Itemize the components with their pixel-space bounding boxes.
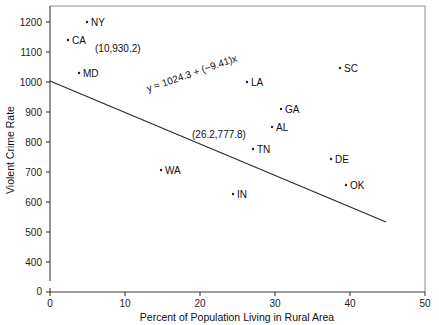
point-label: OK xyxy=(350,180,365,191)
point-label: WA xyxy=(165,165,181,176)
data-point-MD: MD xyxy=(78,68,99,79)
x-tick-marks xyxy=(50,292,425,296)
point-label: NY xyxy=(91,17,105,28)
y-tick-label-0: 0 xyxy=(36,286,42,297)
point-marker xyxy=(252,148,254,150)
data-point-IN: IN xyxy=(232,189,247,200)
point-label: TN xyxy=(257,144,270,155)
data-point-CA: CA xyxy=(67,35,86,46)
scatter-plot-figure: 1200 1100 1000 900 800 700 600 500 400 0… xyxy=(0,0,439,325)
x-tick-label-10: 10 xyxy=(119,298,131,309)
data-point-GA: GA xyxy=(280,104,300,115)
data-point-SC: SC xyxy=(339,63,358,74)
x-tick-label-30: 30 xyxy=(269,298,281,309)
point-marker xyxy=(67,39,69,41)
data-point-AL: AL xyxy=(271,122,289,133)
point-label: CA xyxy=(72,35,86,46)
data-point-WA: WA xyxy=(160,165,181,176)
point-marker xyxy=(86,21,88,23)
data-point-TN: TN xyxy=(252,144,271,155)
point-marker xyxy=(232,193,234,195)
x-tick-label-0: 0 xyxy=(47,298,53,309)
y-tick-label-600: 600 xyxy=(25,197,42,208)
y-tick-label-1000: 1000 xyxy=(20,77,43,88)
regression-line xyxy=(50,81,386,222)
x-tick-label-20: 20 xyxy=(194,298,206,309)
data-point-LA: LA xyxy=(246,77,264,88)
x-tick-label-40: 40 xyxy=(344,298,356,309)
x-axis-title: Percent of Population Living in Rural Ar… xyxy=(140,311,335,323)
y-tick-label-900: 900 xyxy=(25,107,42,118)
point-label: LA xyxy=(251,77,264,88)
y-tick-label-1200: 1200 xyxy=(20,17,43,28)
centroid-annotation-label: (26.2,777.8) xyxy=(192,129,246,140)
plot-canvas: 1200 1100 1000 900 800 700 600 500 400 0… xyxy=(0,0,439,325)
point-label: GA xyxy=(285,104,300,115)
y-tick-marks xyxy=(46,22,50,292)
point-marker xyxy=(330,158,332,160)
data-point-OK: OK xyxy=(345,180,365,191)
y-tick-label-700: 700 xyxy=(25,167,42,178)
outlier-annotation-label: (10,930.2) xyxy=(95,43,141,54)
point-label: IN xyxy=(237,189,247,200)
point-marker xyxy=(160,169,162,171)
point-marker xyxy=(280,108,282,110)
point-marker xyxy=(345,184,347,186)
point-marker xyxy=(246,81,248,83)
point-marker xyxy=(78,72,80,74)
point-label: DE xyxy=(335,154,349,165)
y-tick-label-500: 500 xyxy=(25,227,42,238)
y-tick-label-400: 400 xyxy=(25,257,42,268)
point-label: SC xyxy=(344,63,358,74)
point-label: MD xyxy=(83,68,99,79)
data-point-NY: NY xyxy=(86,17,105,28)
point-label: AL xyxy=(276,122,289,133)
y-tick-label-1100: 1100 xyxy=(20,47,42,58)
point-marker xyxy=(271,126,273,128)
regression-equation-label: y ≈ 1024.3 + (−9.41)x xyxy=(145,53,238,94)
x-tick-label-50: 50 xyxy=(419,298,431,309)
point-marker xyxy=(339,67,341,69)
y-axis-title: Violent Crime Rate xyxy=(4,106,16,194)
data-point-DE: DE xyxy=(330,154,349,165)
y-tick-label-800: 800 xyxy=(25,137,42,148)
